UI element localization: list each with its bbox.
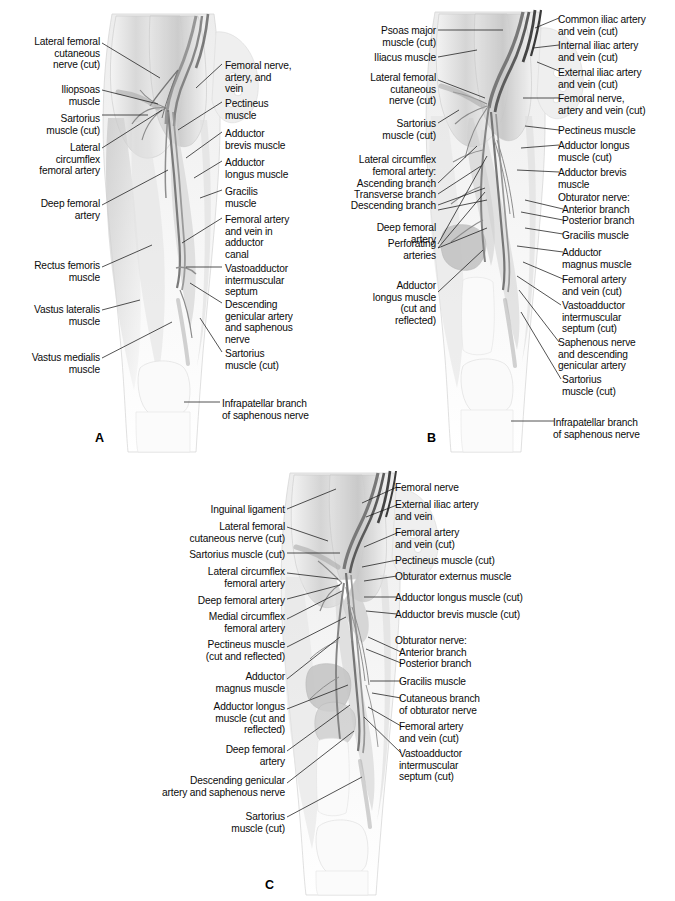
label-c-left-5: Medial circumflex femoral artery (150, 611, 285, 634)
label-a-left-5: Rectus femoris muscle (8, 260, 100, 283)
anatomy-plate: Lateral femoral cutaneous nerve (cut) Il… (0, 0, 675, 901)
label-c-right-5: Adductor longus muscle (cut) (395, 592, 570, 604)
label-a-right-1: Pectineus muscle (225, 98, 337, 121)
panel-c: Inguinal ligament Lateral femoral cutane… (150, 455, 540, 901)
label-a-right-5: Femoral artery and vein in adductor cana… (225, 214, 337, 260)
label-c-right-11: Cutaneous branch of obturator nerve (399, 693, 545, 716)
label-b-right-13: Vastoadductor intermuscular septum (cut) (562, 300, 675, 335)
panel-a: Lateral femoral cutaneous nerve (cut) Il… (0, 0, 340, 460)
label-c-left-11: Sartorius muscle (cut) (155, 811, 285, 834)
label-c-left-8: Adductor longus muscle (cut and reflecte… (150, 701, 285, 736)
label-c-left-6: Pectineus muscle (cut and reflected) (145, 639, 285, 662)
label-c-left-7: Adductor magnus muscle (155, 671, 285, 694)
label-b-right-10: Gracilis muscle (562, 230, 675, 242)
label-c-left-0: Inguinal ligament (160, 504, 285, 516)
label-b-left-2: Lateral femoral cutaneous nerve (cut) (341, 72, 436, 107)
label-b-right-16: Infrapatellar branch of saphenous nerve (553, 417, 675, 440)
label-c-left-2: Sartorius muscle (cut) (140, 549, 285, 561)
label-a-left-6: Vastus lateralis muscle (3, 304, 100, 327)
label-b-right-8: Anterior branch (562, 204, 675, 216)
label-b-right-4: Pectineus muscle (558, 125, 675, 137)
label-b-left-1: Iliacus muscle (331, 52, 436, 64)
label-a-left-1: Iliopsoas muscle (18, 84, 100, 107)
panel-letter-b: B (427, 431, 436, 445)
label-c-left-4: Deep femoral artery (150, 595, 285, 607)
label-c-right-10: Gracilis muscle (399, 676, 545, 688)
label-b-right-3: Femoral nerve, artery and vein (cut) (558, 93, 675, 116)
label-b-left-9: Perforating arteries (341, 238, 436, 261)
panel-letter-c: C (265, 878, 274, 892)
label-c-right-7: Obturator nerve: (395, 635, 545, 647)
label-c-left-9: Deep femoral artery (155, 744, 285, 767)
label-c-right-9: Posterior branch (399, 658, 545, 670)
label-a-left-7: Vastus medialis muscle (3, 352, 100, 375)
label-c-right-8: Anterior branch (399, 647, 545, 659)
label-c-left-3: Lateral circumflex femoral artery (150, 566, 285, 589)
label-b-right-9: Posterior branch (562, 215, 675, 227)
label-a-left-4: Deep femoral artery (15, 198, 100, 221)
label-c-right-6: Adductor brevis muscle (cut) (395, 609, 570, 621)
label-c-right-2: Femoral artery and vein (cut) (395, 527, 545, 550)
label-a-right-7: Descending genicular artery and saphenou… (225, 299, 337, 345)
label-a-right-2: Adductor brevis muscle (225, 128, 337, 151)
label-a-right-4: Gracilis muscle (225, 186, 337, 209)
label-c-right-12: Femoral artery and vein (cut) (399, 721, 545, 744)
label-b-left-10: Adductor longus muscle (cut and reflecte… (330, 280, 436, 326)
label-a-right-9: Infrapatellar branch of saphenous nerve (222, 398, 340, 421)
panel-b: Psoas major muscle (cut) Iliacus muscle … (335, 0, 675, 460)
label-b-left-7: Descending branch (325, 200, 436, 212)
label-c-left-1: Lateral femoral cutaneous nerve (cut) (140, 521, 285, 544)
label-c-right-3: Pectineus muscle (cut) (395, 555, 545, 567)
label-b-right-0: Common iliac artery and vein (cut) (558, 14, 675, 37)
label-a-right-0: Femoral nerve, artery, and vein (225, 60, 337, 95)
label-b-right-1: Internal iliac artery and vein (cut) (558, 40, 675, 63)
label-b-right-12: Femoral artery and vein (cut) (562, 274, 675, 297)
label-b-left-5: Ascending branch (325, 178, 436, 190)
label-b-right-2: External iliac artery and vein (cut) (558, 67, 675, 90)
label-c-right-4: Obturator externus muscle (395, 571, 560, 583)
label-c-right-1: External iliac artery and vein (395, 499, 545, 522)
label-b-left-4: Lateral circumflex femoral artery: (325, 154, 436, 177)
label-b-right-6: Adductor brevis muscle (558, 167, 675, 190)
label-a-left-3: Lateral circumflex femoral artery (3, 142, 100, 177)
label-a-right-8: Sartorius muscle (cut) (225, 348, 337, 371)
label-b-left-0: Psoas major muscle (cut) (341, 25, 436, 48)
label-a-right-6: Vastoadductor intermuscular septum (225, 263, 337, 298)
label-b-left-6: Transverse branch (325, 189, 436, 201)
label-b-right-5: Adductor longus muscle (cut) (558, 140, 675, 163)
label-a-left-2: Sartorius muscle (cut) (8, 113, 100, 136)
label-b-right-14: Saphenous nerve and descending genicular… (558, 337, 675, 372)
label-b-right-11: Adductor magnus muscle (562, 247, 675, 270)
label-a-right-3: Adductor longus muscle (225, 157, 337, 180)
panel-letter-a: A (95, 431, 104, 445)
label-b-right-7: Obturator nerve: (558, 192, 675, 204)
label-b-right-15: Sartorius muscle (cut) (562, 374, 675, 397)
label-c-right-0: Femoral nerve (395, 482, 545, 494)
label-a-left-0: Lateral femoral cutaneous nerve (cut) (8, 36, 100, 71)
label-b-left-3: Sartorius muscle (cut) (341, 118, 436, 141)
label-c-left-10: Descending genicular artery and saphenou… (118, 775, 285, 798)
label-c-right-13: Vastoadductor intermuscular septum (cut) (399, 748, 545, 783)
